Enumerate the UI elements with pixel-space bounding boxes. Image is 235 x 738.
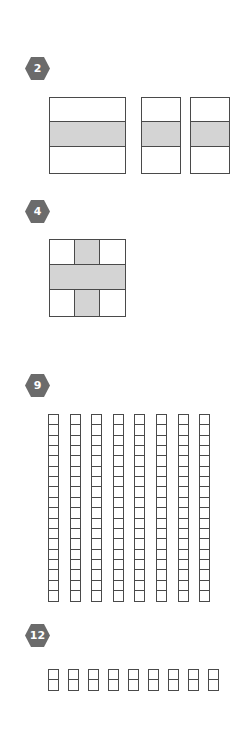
unit-square	[188, 679, 199, 691]
problem-badge-4: 4	[25, 200, 50, 223]
unit-square	[148, 679, 159, 691]
rect-large-bottom	[49, 146, 126, 174]
unit-square	[108, 679, 119, 691]
unit-square	[134, 590, 145, 602]
problem-badge-9: 9	[25, 374, 50, 397]
cell-br	[99, 289, 126, 317]
cell-bl	[49, 289, 76, 317]
rect-small-2	[190, 97, 230, 123]
unit-square	[88, 679, 99, 691]
rect-large-shaded-strip	[49, 121, 126, 148]
unit-square	[68, 679, 79, 691]
unit-square	[128, 679, 139, 691]
cell-tm	[74, 239, 101, 266]
unit-square	[48, 679, 59, 691]
rect-small-2-shaded-strip	[190, 121, 230, 148]
cell-tl	[49, 239, 76, 266]
rect-small-2-bottom	[190, 146, 230, 174]
cell-middle-row	[49, 264, 126, 291]
cell-bm	[74, 289, 101, 317]
unit-square	[199, 590, 210, 602]
unit-square	[48, 590, 59, 602]
rect-small-1	[141, 97, 181, 123]
problem-badge-12: 12	[25, 624, 50, 647]
badge-number: 9	[25, 374, 50, 397]
unit-square	[91, 590, 102, 602]
badge-number: 4	[25, 200, 50, 223]
rect-small-1-shaded-strip	[141, 121, 181, 148]
badge-number: 12	[25, 624, 50, 647]
unit-square	[113, 590, 124, 602]
badge-number: 2	[25, 57, 50, 80]
rect-small-1-bottom	[141, 146, 181, 174]
rect-large	[49, 97, 126, 123]
unit-square	[208, 679, 219, 691]
cell-tr	[99, 239, 126, 266]
unit-square	[70, 590, 81, 602]
problem-badge-2: 2	[25, 57, 50, 80]
unit-square	[156, 590, 167, 602]
unit-square	[168, 679, 179, 691]
unit-square	[178, 590, 189, 602]
